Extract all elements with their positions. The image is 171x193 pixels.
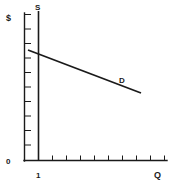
demand-curve-label: D [119, 76, 125, 85]
demand-curve [28, 50, 141, 93]
origin-label: 0 [6, 157, 11, 166]
supply-demand-chart: $ S D 0 1 Q [0, 0, 171, 193]
y-axis-ticks [25, 15, 31, 146]
x-axis-label: Q [154, 170, 161, 180]
supply-curve-label: S [35, 3, 41, 12]
y-axis-label: $ [6, 13, 11, 23]
chart-canvas: $ S D 0 1 Q [0, 0, 171, 193]
x-tick-label-1: 1 [36, 171, 41, 180]
x-axis-ticks [39, 155, 165, 161]
